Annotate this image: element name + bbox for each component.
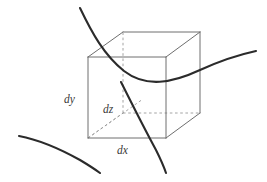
- figure-container: dy dz dx: [0, 0, 267, 182]
- label-dx: dx: [117, 144, 129, 156]
- label-dy: dy: [64, 93, 76, 106]
- cube-hidden-edges: [88, 33, 199, 138]
- upper-field-line-curve: [80, 8, 256, 82]
- edge-connector-top-right: [166, 32, 200, 57]
- dimension-leaders: [88, 99, 143, 138]
- dz-leader-line: [88, 99, 143, 138]
- through-field-line-curve: [121, 82, 166, 173]
- cube-visible-edges: [88, 32, 200, 138]
- field-lines: [19, 8, 256, 173]
- label-dz: dz: [103, 103, 114, 115]
- dimension-labels: dy dz dx: [64, 93, 129, 156]
- lower-left-field-line-curve: [19, 136, 100, 173]
- edge-connector-bottom-right: [166, 113, 200, 138]
- differential-volume-element-diagram: dy dz dx: [0, 0, 267, 182]
